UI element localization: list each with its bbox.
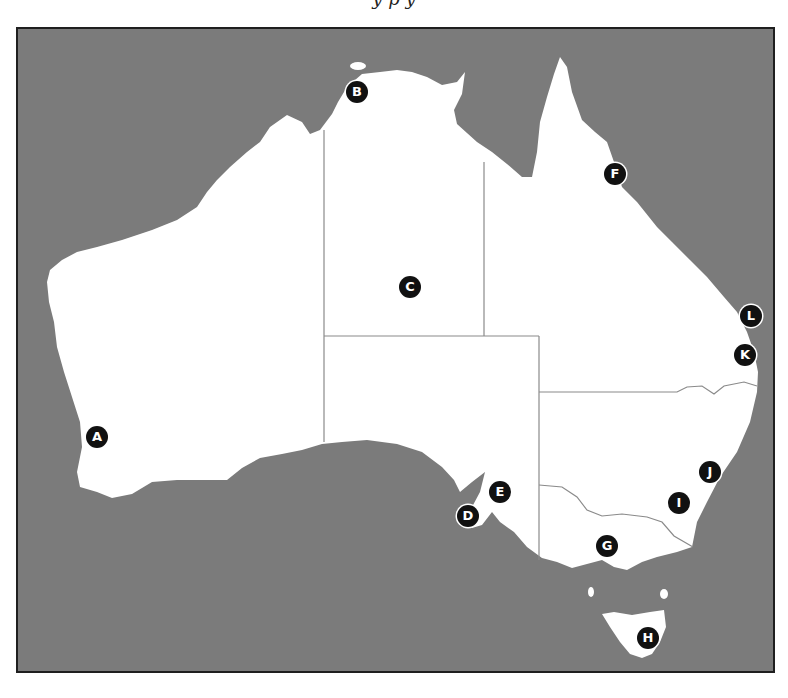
- location-marker-f: F: [604, 163, 626, 185]
- location-marker-b: B: [346, 81, 368, 103]
- location-marker-k: K: [734, 344, 756, 366]
- location-marker-d: D: [457, 505, 479, 527]
- location-marker-j: J: [699, 461, 721, 483]
- location-marker-i: I: [668, 492, 690, 514]
- map-title: y p y: [0, 0, 788, 9]
- location-marker-l: L: [740, 305, 762, 327]
- location-marker-h: H: [637, 627, 659, 649]
- location-marker-a: A: [86, 426, 108, 448]
- island: [350, 62, 366, 70]
- location-marker-e: E: [489, 481, 511, 503]
- map-frame: ABCDEFGHIJKL: [16, 27, 775, 673]
- location-marker-c: C: [399, 276, 421, 298]
- location-marker-g: G: [596, 535, 618, 557]
- australia-map: [18, 29, 773, 671]
- mainland-landmass: [47, 57, 758, 570]
- island: [588, 587, 594, 597]
- island: [660, 589, 668, 599]
